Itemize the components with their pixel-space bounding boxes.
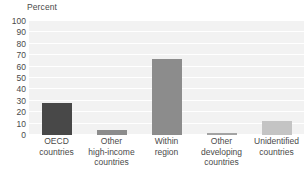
- y-axis-title: Percent: [27, 2, 57, 12]
- y-axis-tick-label: 50: [17, 74, 26, 83]
- bars-layer: [29, 21, 304, 135]
- category-label-line: Within: [139, 136, 194, 147]
- y-axis-tick-label: 30: [17, 97, 26, 106]
- bar: [207, 133, 237, 135]
- bar: [97, 130, 127, 135]
- bar-slot: [139, 21, 194, 135]
- bar-slot: [84, 21, 139, 135]
- x-axis-category-label: Otherdevelopingcountries: [194, 136, 249, 168]
- category-label-line: countries: [29, 147, 84, 158]
- percent-bar-chart: Percent 1009080706050403020100 OECDcount…: [0, 0, 307, 178]
- y-axis-tick-label: 60: [17, 63, 26, 72]
- bar: [42, 103, 72, 135]
- category-label-line: developing: [194, 147, 249, 158]
- category-label-line: countries: [84, 157, 139, 168]
- category-label-line: high-income: [84, 147, 139, 158]
- y-axis-tick-label: 100: [12, 17, 26, 26]
- x-axis-category-label: Withinregion: [139, 136, 194, 157]
- category-label-line: Other: [194, 136, 249, 147]
- category-label-line: countries: [249, 147, 304, 158]
- x-axis-category-label: OECDcountries: [29, 136, 84, 157]
- category-label-line: OECD: [29, 136, 84, 147]
- y-axis-tick-label: 40: [17, 85, 26, 94]
- x-axis-category-label: Otherhigh-incomecountries: [84, 136, 139, 168]
- bar: [262, 121, 292, 135]
- y-axis-tick-labels: 1009080706050403020100: [0, 0, 29, 178]
- category-label-line: Other: [84, 136, 139, 147]
- y-axis-tick-label: 90: [17, 28, 26, 37]
- category-label-line: countries: [194, 157, 249, 168]
- x-axis-category-label: Unidentifiedcountries: [249, 136, 304, 157]
- y-axis-tick-label: 0: [21, 131, 26, 140]
- y-axis-tick-label: 80: [17, 40, 26, 49]
- category-label-line: Unidentified: [249, 136, 304, 147]
- x-axis-category-labels: OECDcountriesOtherhigh-incomecountriesWi…: [29, 136, 304, 178]
- y-axis-tick-label: 70: [17, 51, 26, 60]
- bar-slot: [29, 21, 84, 135]
- bar: [152, 59, 182, 135]
- y-axis-tick-label: 20: [17, 108, 26, 117]
- category-label-line: region: [139, 147, 194, 158]
- bar-slot: [249, 21, 304, 135]
- y-axis-tick-label: 10: [17, 120, 26, 129]
- bar-slot: [194, 21, 249, 135]
